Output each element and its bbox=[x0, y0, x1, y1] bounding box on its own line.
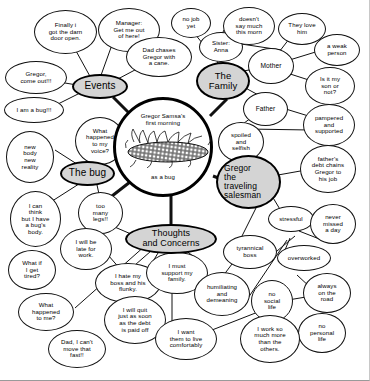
node-i-am-a-bug[interactable]: I am a bug!!! bbox=[4, 97, 64, 123]
node-label: Dad, I can't move that fast!! bbox=[51, 339, 103, 359]
node-dad-chases-gregor[interactable]: Dad chases Gregor with a cane. bbox=[126, 37, 192, 77]
center-node[interactable]: Gregor Samsa's first morning bbox=[113, 97, 213, 197]
node-label: What if I get tired? bbox=[11, 260, 53, 280]
node-stressful[interactable]: stressful bbox=[268, 206, 314, 232]
node-label: no personal life bbox=[301, 323, 343, 343]
node-father[interactable]: Father bbox=[243, 92, 288, 126]
node-label: pampered and supported bbox=[306, 115, 352, 135]
node-label: Dad chases Gregor with a cane. bbox=[129, 47, 189, 67]
node-label: always on the road bbox=[306, 283, 348, 303]
node-label: I work so much more than the others. bbox=[243, 326, 297, 352]
node-label: too many legs!! bbox=[81, 203, 120, 223]
node-label: tyrannical boss bbox=[226, 245, 274, 258]
node-mother[interactable]: Mother bbox=[248, 48, 294, 84]
node-pampered-and-supported[interactable]: pampered and supported bbox=[303, 104, 355, 146]
node-finally-door-open[interactable]: Finally i got the darn door open. bbox=[34, 10, 97, 54]
node-label: What happened to me? bbox=[21, 302, 71, 322]
node-label: Father bbox=[246, 105, 285, 112]
node-label: never missed a day bbox=[313, 214, 353, 234]
node-label: I must support my family. bbox=[149, 263, 205, 283]
node-late-for-work[interactable]: I will be late for work. bbox=[60, 228, 112, 270]
node-label: I will quit just as soon as the debt is … bbox=[107, 307, 163, 333]
node-is-it-my-son-or-not[interactable]: Is it my son or not? bbox=[305, 67, 355, 105]
node-label: doesn't say much this morn bbox=[226, 16, 272, 36]
node-want-them-comfortable[interactable]: I want them to live comfortably bbox=[155, 318, 217, 360]
node-never-missed-a-day[interactable]: never missed a day bbox=[310, 204, 356, 244]
node-label: a weak person bbox=[317, 43, 357, 56]
node-label: Is it my son or not? bbox=[308, 76, 352, 96]
node-gregor-come-out[interactable]: Gregor, come out!!! bbox=[5, 61, 67, 94]
center-caption-bottom: as a bug bbox=[116, 174, 210, 180]
hub-salesman-label: Gregor the traveling salesman bbox=[220, 164, 277, 201]
node-always-on-the-road[interactable]: always on the road bbox=[303, 273, 351, 313]
node-what-happened-to-me[interactable]: What happened to me? bbox=[18, 293, 74, 331]
node-label: no job yet bbox=[174, 16, 208, 29]
node-label: new body new reality bbox=[9, 144, 51, 170]
hub-family[interactable]: The Family bbox=[196, 62, 250, 100]
node-label: humiliating and demeaning bbox=[197, 284, 247, 304]
hub-thoughts-label: Thoughts and Concerns bbox=[129, 229, 213, 248]
node-work-more-than-others[interactable]: I work so much more than the others. bbox=[240, 315, 300, 363]
hub-the-bug-label: The bug bbox=[64, 168, 111, 179]
node-label: overworked bbox=[280, 255, 328, 262]
node-doesnt-say-much[interactable]: doesn't say much this morn bbox=[223, 7, 275, 45]
node-dad-cant-move-fast[interactable]: Dad, I can't move that fast!! bbox=[48, 330, 106, 368]
node-label: stressful bbox=[271, 216, 311, 223]
mind-map-canvas: Gregor Samsa's first morning bbox=[0, 0, 370, 381]
hub-thoughts-and-concerns[interactable]: Thoughts and Concerns bbox=[125, 224, 217, 254]
node-no-job-yet[interactable]: no job yet bbox=[171, 8, 211, 38]
node-label: Mother bbox=[251, 62, 291, 69]
node-i-can-think-bugs-body[interactable]: I can think but I have a bug's body. bbox=[10, 191, 61, 247]
node-no-personal-life[interactable]: no personal life bbox=[298, 313, 346, 353]
hub-events[interactable]: Events bbox=[72, 74, 128, 99]
beetle-bug-illustration bbox=[124, 126, 212, 168]
node-label: Sister: Anna bbox=[202, 40, 240, 53]
node-what-if-i-get-tired[interactable]: What if I get tired? bbox=[8, 250, 56, 290]
node-label: spoiled and selfish bbox=[221, 132, 261, 152]
center-caption-top: Gregor Samsa's first morning bbox=[116, 113, 210, 127]
node-label: They love him bbox=[281, 22, 323, 35]
node-overworked[interactable]: overworked bbox=[277, 245, 331, 271]
node-label: I am a bug!!! bbox=[7, 107, 61, 114]
node-new-body-new-reality[interactable]: new body new reality bbox=[6, 131, 54, 183]
hub-events-label: Events bbox=[76, 81, 124, 92]
hub-family-label: The Family bbox=[200, 71, 246, 92]
node-fathers-debt-chains[interactable]: father's debt chains Gregor to his job bbox=[300, 145, 356, 193]
hub-gregor-salesman[interactable]: Gregor the traveling salesman bbox=[216, 155, 281, 209]
node-humiliating-and-demeaning[interactable]: humiliating and demeaning bbox=[194, 272, 250, 316]
node-label: Finally i got the darn door open. bbox=[37, 22, 94, 42]
node-tyrannical-boss[interactable]: tyrannical boss bbox=[223, 235, 277, 269]
node-label: I want them to live comfortably bbox=[158, 329, 214, 349]
node-label: I can think but I have a bug's body. bbox=[13, 203, 58, 236]
node-label: father's debt chains Gregor to his job bbox=[303, 156, 353, 182]
node-label: I will be late for work. bbox=[63, 239, 109, 259]
hub-the-bug[interactable]: The bug bbox=[60, 161, 115, 186]
node-a-weak-person[interactable]: a weak person bbox=[314, 34, 360, 66]
node-label: no social life bbox=[254, 291, 290, 311]
node-label: Gregor, come out!!! bbox=[8, 71, 64, 84]
